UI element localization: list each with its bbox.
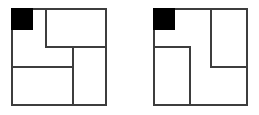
figure-canvas: Two partitioned squares with shaded corn…	[0, 0, 259, 115]
right-panel-shaded-cell	[153, 8, 175, 30]
right-panel-divider-horizontal-left	[153, 46, 191, 48]
right-panel-divider-horizontal-right	[210, 66, 248, 68]
right-panel	[0, 0, 259, 115]
right-panel-divider-vertical-left	[189, 46, 191, 106]
right-panel-divider-vertical-right	[210, 8, 212, 68]
